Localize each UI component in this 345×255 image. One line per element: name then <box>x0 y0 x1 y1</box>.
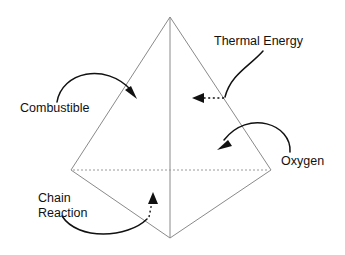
diagram-canvas: Thermal Energy Combustible Oxygen Chain … <box>0 0 345 255</box>
label-chain-reaction: Chain Reaction <box>38 191 87 220</box>
chain-reaction-arrowhead-icon <box>148 192 158 204</box>
thermal-energy-pointer <box>192 51 263 103</box>
combustible-pointer-curve <box>57 73 131 102</box>
chain-reaction-pointer-dotted <box>149 202 152 217</box>
oxygen-pointer-curve <box>224 123 290 152</box>
label-chain-reaction-line-2: Reaction <box>38 206 87 220</box>
combustible-arrowhead-icon <box>125 86 137 99</box>
oxygen-pointer <box>217 123 290 152</box>
oxygen-arrowhead-icon <box>217 140 232 150</box>
combustible-pointer <box>57 73 137 102</box>
tetrahedron-shape <box>71 17 271 238</box>
label-oxygen: Oxygen <box>281 154 324 168</box>
edge-right-to-bottom <box>170 170 271 238</box>
thermal-energy-arrowhead-icon <box>192 93 204 103</box>
edge-apex-to-left <box>71 17 170 170</box>
label-thermal-energy: Thermal Energy <box>214 34 304 48</box>
label-combustible: Combustible <box>20 101 90 115</box>
fire-tetrahedron-diagram: Thermal Energy Combustible Oxygen Chain … <box>0 0 345 255</box>
thermal-energy-pointer-curve <box>225 51 263 97</box>
label-chain-reaction-line-1: Chain <box>38 191 71 205</box>
